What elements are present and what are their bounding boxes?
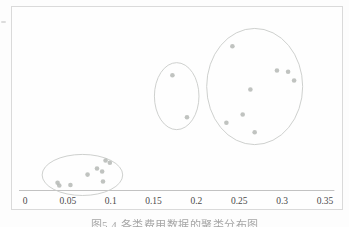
cluster-low-left-point	[68, 183, 73, 188]
cluster-right-point	[292, 78, 297, 83]
cluster-low-left-point	[85, 172, 90, 177]
figure-caption: 图5.4 各类费用数据的聚类分布图	[0, 219, 349, 227]
x-tick-label: 0.35	[317, 196, 334, 206]
cluster-right-point	[275, 68, 280, 73]
cluster-low-left-point	[57, 183, 62, 188]
x-tick-label: 0.25	[231, 196, 248, 206]
cluster-low-left-point	[108, 160, 113, 165]
cluster-middle-point	[185, 115, 190, 120]
cluster-right-point	[252, 130, 257, 135]
x-tick-label: 0.1	[105, 196, 117, 206]
cluster-right-point	[248, 87, 253, 92]
cluster-middle-ellipse	[154, 63, 199, 130]
cluster-right-point	[230, 44, 235, 49]
cluster-right-point	[224, 120, 229, 125]
cluster-right-point	[240, 112, 245, 117]
cluster-low-left-point	[100, 169, 105, 174]
x-tick-label: 0.15	[145, 196, 162, 206]
cluster-right-point	[286, 69, 291, 74]
x-tick-label: 0.3	[276, 196, 288, 206]
cluster-middle-point	[170, 73, 175, 78]
scanned-figure-page: 00.050.10.150.20.250.30.35 图5.4 各类费用数据的聚…	[0, 0, 349, 227]
cluster-low-left-point	[101, 179, 106, 184]
x-tick-label: 0.05	[60, 196, 77, 206]
cluster-low-left-point	[95, 166, 100, 171]
cluster-right-ellipse	[207, 28, 303, 144]
x-tick-label: 0.2	[190, 196, 202, 206]
cluster-scatter-chart: 00.050.10.150.20.250.30.35	[0, 0, 349, 227]
cluster-low-left-point	[103, 158, 108, 163]
x-tick-label: 0	[23, 196, 28, 206]
